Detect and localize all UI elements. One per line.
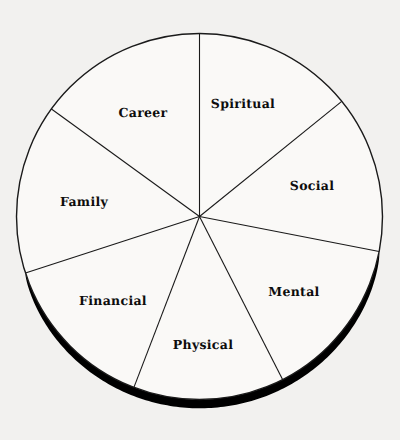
wheel-svg (0, 0, 400, 440)
wheel-label-physical: Physical (173, 339, 233, 352)
wheel-label-career: Career (119, 107, 168, 120)
wheel-label-social: Social (290, 180, 334, 193)
wheel-label-financial: Financial (79, 295, 147, 308)
wheel-label-family: Family (60, 196, 108, 209)
wheel-of-life-diagram: SpiritualSocialMentalPhysicalFinancialFa… (0, 0, 400, 440)
wheel-label-mental: Mental (268, 286, 319, 299)
wheel-label-spiritual: Spiritual (211, 98, 275, 111)
